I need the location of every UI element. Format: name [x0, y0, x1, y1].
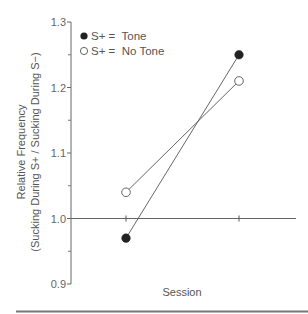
- series-line: [126, 55, 239, 238]
- y-axis-title: Relative Frequency: [15, 104, 27, 199]
- y-tick-label: 0.9: [51, 278, 66, 290]
- y-axis-subtitle: (Sucking During S+ / Sucking During S−): [29, 52, 41, 251]
- data-point-open: [235, 77, 244, 86]
- y-tick-label: 1.1: [51, 147, 66, 159]
- data-point-filled: [122, 234, 131, 243]
- y-tick-label: 1.3: [51, 16, 66, 28]
- y-axis-label: Relative Frequency (Sucking During S+ / …: [15, 52, 41, 251]
- y-tick-label: 1.0: [51, 213, 66, 225]
- chart: 0.91.01.11.21.3 S+ = Tone S+ = No Tone R…: [0, 0, 308, 314]
- data-point-filled: [235, 50, 244, 59]
- x-axis-title: Session: [162, 286, 201, 298]
- y-tick-label: 1.2: [51, 82, 66, 94]
- legend: S+ = Tone S+ = No Tone: [80, 30, 164, 57]
- data-series: [122, 50, 244, 242]
- series-line: [126, 81, 239, 192]
- legend-filled-circle-icon: [80, 32, 87, 39]
- legend-label-tone: S+ = Tone: [91, 30, 146, 42]
- legend-label-no-tone: S+ = No Tone: [91, 45, 164, 57]
- data-point-open: [122, 188, 131, 197]
- legend-open-circle-icon: [80, 47, 87, 54]
- y-axis: 0.91.01.11.21.3: [51, 16, 71, 290]
